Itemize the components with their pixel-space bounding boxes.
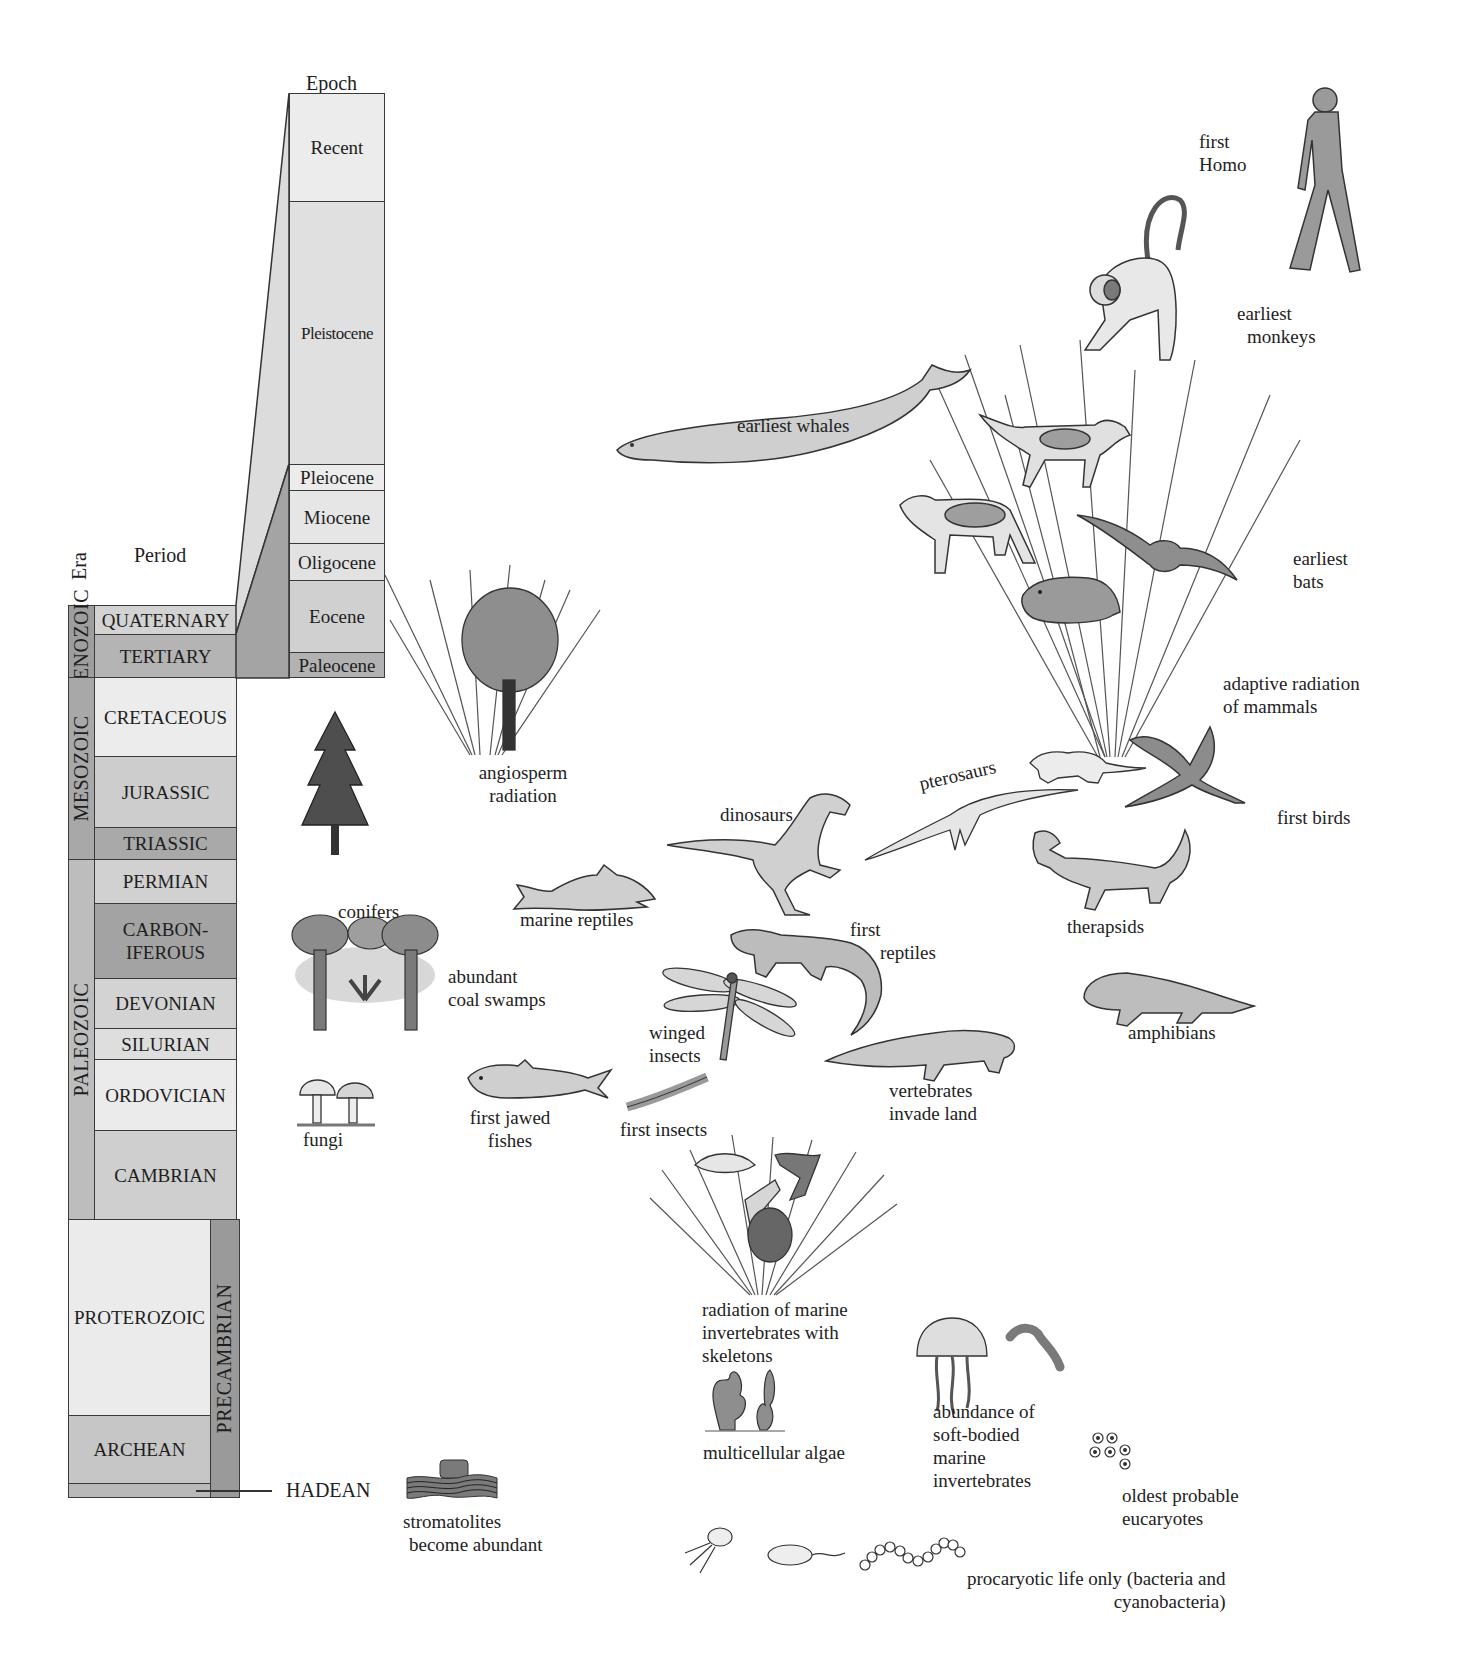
label-therapsids: therapsids <box>1067 915 1144 938</box>
label-first-jawed-fishes: first jawedfishes <box>455 1106 565 1152</box>
label-fungi: fungi <box>303 1128 343 1151</box>
jawed-fish-illustration <box>463 1058 613 1108</box>
label-marine-reptiles: marine reptiles <box>520 908 633 931</box>
human-illustration <box>1270 80 1380 280</box>
label-vertebrates-invade-land: vertebratesinvade land <box>889 1079 977 1125</box>
algae-illustration <box>705 1365 785 1435</box>
therapsid-illustration <box>1030 828 1195 913</box>
first-insect-illustration <box>622 1072 712 1112</box>
label-conifers: conifers <box>338 900 399 923</box>
label-earliest-whales: earliest whales <box>737 414 849 437</box>
label-amphibians: amphibians <box>1128 1021 1216 1044</box>
amphibian-illustration <box>1082 968 1257 1028</box>
label-coal-swamps: abundantcoal swamps <box>448 965 546 1011</box>
label-first-insects: first insects <box>620 1118 707 1141</box>
label-first-reptiles: firstreptiles <box>850 918 936 964</box>
label-radiation-marine-invertebrates: radiation of marineinvertebrates withske… <box>702 1298 848 1367</box>
label-winged-insects: wingedinsects <box>649 1021 705 1067</box>
label-angiosperm-radiation: angiospermradiation <box>462 761 584 807</box>
label-procaryotic-life: procaryotic life only (bacteria andcyano… <box>967 1567 1226 1613</box>
fungi-illustration <box>295 1070 375 1130</box>
canine-illustration <box>975 405 1135 495</box>
rodent-illustration <box>1018 570 1123 630</box>
label-multicellular-algae: multicellular algae <box>703 1441 845 1464</box>
angiosperm-tree-illustration <box>455 585 565 755</box>
conifer-illustration <box>300 710 370 860</box>
label-soft-bodied-invertebrates: abundance ofsoft-bodied marineinvertebra… <box>933 1400 1035 1492</box>
worm-illustration <box>1005 1322 1065 1372</box>
label-stromatolites: stromatolitesbecome abundant <box>403 1510 542 1556</box>
label-dinosaurs: dinosaurs <box>720 803 793 826</box>
label-first-homo: firstHomo <box>1199 130 1247 176</box>
monkey-illustration <box>1070 190 1230 365</box>
label-earliest-monkeys: earliestmonkeys <box>1237 302 1316 348</box>
coal-swamp-illustration <box>290 915 445 1035</box>
label-adaptive-radiation: adaptive radiationof mammals <box>1223 672 1360 718</box>
eucaryote-cells-illustration <box>1090 1430 1140 1478</box>
stromatolite-illustration <box>405 1458 500 1503</box>
marine-invertebrates-illustration <box>690 1150 860 1265</box>
label-earliest-bats: earliestbats <box>1293 547 1348 593</box>
label-first-birds: first birds <box>1277 806 1350 829</box>
label-oldest-eucaryotes: oldest probableeucaryotes <box>1122 1484 1239 1530</box>
bird-illustration <box>1120 725 1250 810</box>
bacteria-illustration <box>680 1525 980 1580</box>
